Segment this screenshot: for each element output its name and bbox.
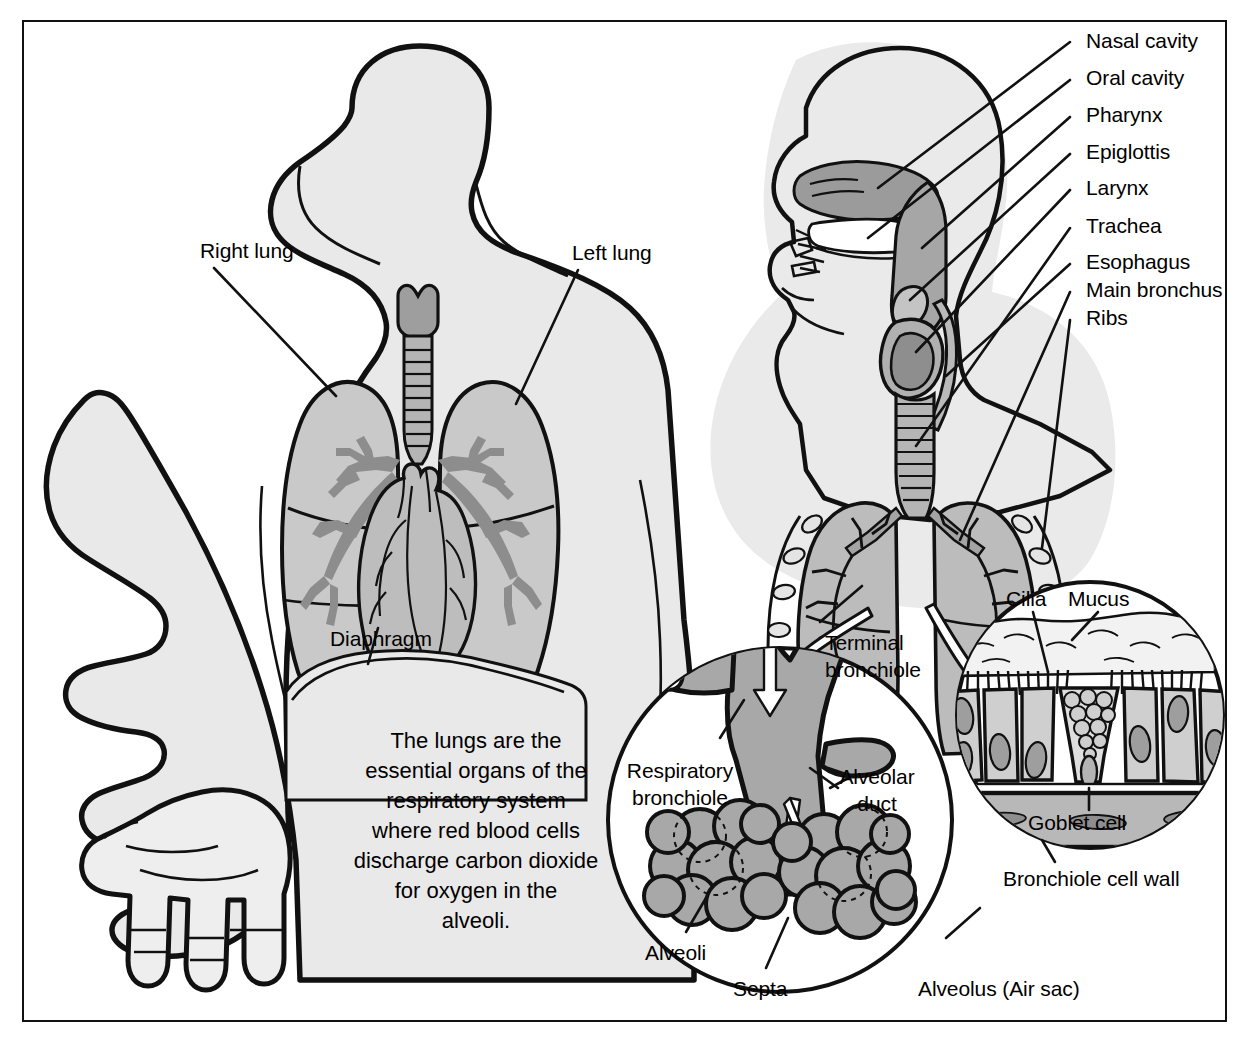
trachea-anterior <box>404 336 432 464</box>
label-larynx: Larynx <box>1086 175 1148 200</box>
label-terminal-bronchiole: Terminal bronchiole <box>825 629 921 683</box>
leader-alveolus-airsac <box>946 908 980 938</box>
larynx-anterior <box>398 285 438 338</box>
lungs-description-text: The lungs are the essential organs of th… <box>330 726 622 936</box>
diagram-canvas: Right lung Left lung Diaphragm The lungs… <box>0 0 1250 1061</box>
label-right-lung: Right lung <box>200 238 294 263</box>
label-nasal-cavity: Nasal cavity <box>1086 28 1198 53</box>
label-cilia: Cilia <box>1006 586 1046 611</box>
label-diaphragm: Diaphragm <box>330 626 432 651</box>
label-septa: Septa <box>733 976 787 1001</box>
basement-membrane <box>940 784 1244 792</box>
label-pharynx: Pharynx <box>1086 102 1162 127</box>
label-oral-cavity: Oral cavity <box>1086 65 1184 90</box>
label-goblet-cell: Goblet cell <box>1028 810 1126 835</box>
label-esophagus: Esophagus <box>1086 249 1190 274</box>
label-epiglottis: Epiglottis <box>1086 139 1170 164</box>
label-ribs: Ribs <box>1086 305 1128 330</box>
label-respiratory-bronchiole: Respiratory bronchiole <box>620 757 740 811</box>
label-main-bronchus: Main bronchus <box>1086 277 1222 302</box>
alveoli-cluster-left <box>644 800 786 930</box>
label-trachea: Trachea <box>1086 213 1162 238</box>
label-alveoli: Alveoli <box>645 940 706 965</box>
label-bronchiole-cell-wall: Bronchiole cell wall <box>1003 866 1180 891</box>
label-alveolus-air-sac: Alveolus (Air sac) <box>918 976 1080 1001</box>
label-alveolar-duct: Alveolar duct <box>831 763 923 817</box>
label-mucus: Mucus <box>1068 586 1129 611</box>
artwork-layer <box>0 0 1250 1061</box>
label-left-lung: Left lung <box>572 240 652 265</box>
leader-right-lung <box>214 268 336 396</box>
